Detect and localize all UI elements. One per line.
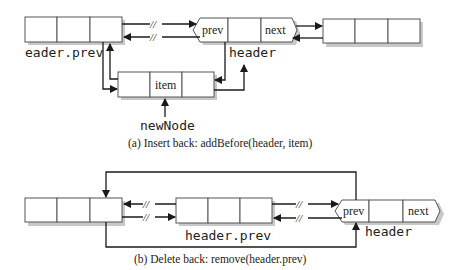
panel-b: header.prev prev next header // // // //… (25, 172, 444, 266)
break-mark-a1: // (149, 18, 157, 30)
label-header-prev-a: eader.prev (25, 45, 103, 60)
diagram-canvas: eader.prev prev next header item newNode (0, 0, 454, 270)
break-mark-b3: // (295, 198, 303, 210)
arrow-header-prev-bypass (106, 172, 356, 200)
new-node-item-field: item (155, 78, 177, 92)
header-prev-field-a: prev (202, 23, 223, 37)
label-new-node: newNode (140, 118, 195, 133)
header-prev-field-b: prev (343, 204, 364, 218)
arrow-new-to-header (214, 65, 244, 90)
break-mark-a2: // (149, 31, 157, 43)
arrow-new-to-prev (110, 44, 118, 79)
node-header-prev-b (176, 198, 275, 226)
caption-a: (a) Insert back: addBefore(header, item) (128, 137, 313, 150)
break-mark-b2: // (142, 211, 150, 223)
header-next-field-b: next (408, 204, 429, 218)
arrow-header-to-new (215, 42, 225, 80)
break-mark-b4: // (295, 212, 303, 224)
node-right-a (323, 19, 423, 47)
break-mark-b1: // (142, 198, 150, 210)
panel-a: eader.prev prev next header item newNode (25, 17, 423, 150)
label-header-b: header (365, 224, 412, 239)
label-header-a: header (229, 45, 276, 60)
label-header-prev-b: header.prev (185, 228, 271, 243)
header-next-field-a: next (265, 23, 286, 37)
node-left-b (25, 198, 125, 226)
caption-b: (b) Delete back: remove(header.prev) (134, 253, 307, 266)
node-header-prev-a (25, 17, 125, 45)
